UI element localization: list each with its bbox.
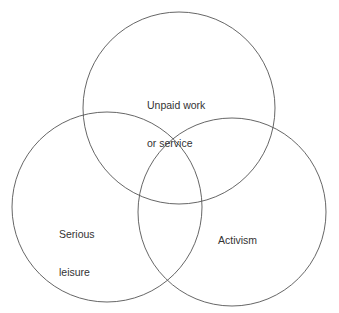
label-unpaid-work-line2: or service — [147, 137, 205, 150]
label-activism-line1: Activism — [218, 234, 257, 247]
label-serious-leisure-line2: leisure — [59, 266, 95, 279]
label-unpaid-work-line1: Unpaid work — [147, 99, 205, 112]
label-serious-leisure-line1: Serious — [59, 228, 95, 241]
label-unpaid-work: Unpaid work or service — [147, 74, 205, 162]
label-serious-leisure: Serious leisure — [59, 203, 95, 291]
label-activism: Activism — [218, 209, 257, 259]
